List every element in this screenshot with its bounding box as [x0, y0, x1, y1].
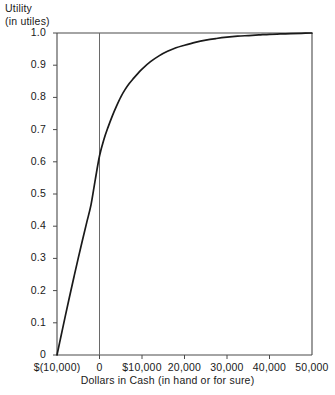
y-axis-ticks [53, 33, 57, 355]
y-tick-label: 0.4 [12, 219, 46, 231]
x-axis-ticks [100, 355, 270, 359]
x-tick-label: 50,000 [262, 361, 335, 373]
y-tick-label: 0.7 [12, 123, 46, 135]
y-tick-label: 0.9 [12, 58, 46, 70]
axis-frame [57, 33, 312, 355]
y-tick-label: 0.1 [12, 316, 46, 328]
y-tick-label: 0.8 [12, 90, 46, 102]
y-tick-label: 0.3 [12, 251, 46, 263]
plot-area [0, 0, 335, 395]
y-tick-label: 1.0 [12, 26, 46, 38]
y-tick-label: 0.6 [12, 155, 46, 167]
y-tick-label: 0 [12, 348, 46, 360]
utility-curve-chart: Utility (in utiles) 00.10.20.30.40.50.60… [0, 0, 335, 395]
y-tick-label: 0.2 [12, 284, 46, 296]
x-axis-title: Dollars in Cash (in hand or for sure) [0, 374, 335, 386]
y-tick-label: 0.5 [12, 187, 46, 199]
utility-curve-line [57, 33, 312, 355]
